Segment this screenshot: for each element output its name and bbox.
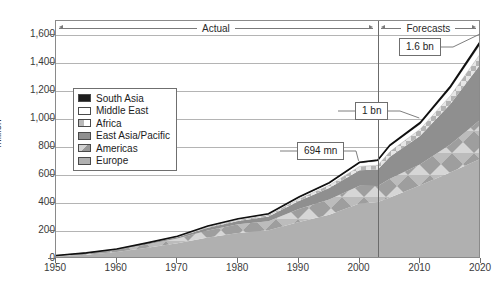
legend-item: Americas (78, 142, 170, 155)
legend-item-label: Middle East (96, 105, 148, 116)
legend-item-label: Americas (96, 143, 138, 154)
legend-swatch-icon (78, 157, 91, 165)
legend-swatch-icon (78, 132, 91, 140)
legend-item-label: Europe (96, 155, 128, 166)
legend: South AsiaMiddle EastAfricaEast Asia/Pac… (73, 88, 177, 171)
legend-swatch-icon (78, 144, 91, 152)
legend-item-label: Africa (96, 118, 122, 129)
leader-line (388, 111, 419, 118)
legend-swatch-icon (78, 119, 91, 127)
callout-1-bn: 1 bn (355, 102, 388, 120)
callout-1-6-bn: 1.6 bn (399, 38, 441, 56)
legend-item-label: South Asia (96, 93, 144, 104)
legend-item: Middle East (78, 105, 170, 118)
legend-item: South Asia (78, 92, 170, 105)
callout-694-mn: 694 mn (297, 142, 344, 160)
legend-item: Europe (78, 155, 170, 168)
leader-line (344, 151, 359, 161)
legend-item-label: East Asia/Pacific (96, 130, 170, 141)
legend-swatch-icon (78, 94, 91, 102)
legend-swatch-icon (78, 107, 91, 115)
legend-item: Africa (78, 117, 170, 130)
legend-item: East Asia/Pacific (78, 130, 170, 143)
leader-line (441, 34, 480, 47)
